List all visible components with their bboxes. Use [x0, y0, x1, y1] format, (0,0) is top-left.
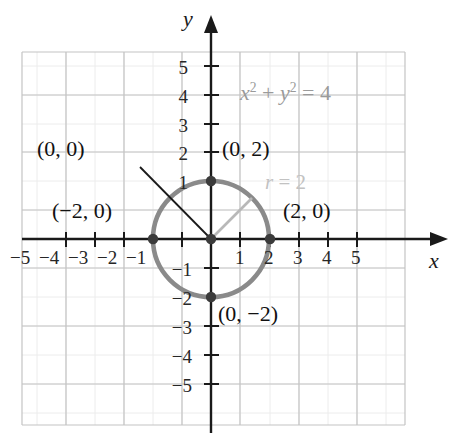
- y-tick--2: −2: [172, 289, 192, 308]
- x-tick--4: −4: [39, 248, 59, 267]
- equation-x-term: x: [240, 80, 250, 105]
- point-center: [206, 234, 216, 244]
- radius-line: [211, 198, 252, 239]
- radius-equals-two: = 2: [278, 170, 306, 194]
- x-tick--5: −5: [10, 248, 30, 267]
- x-tick-3: 3: [293, 248, 303, 267]
- x-tick-5: 5: [351, 248, 361, 267]
- y-tick--3: −3: [172, 318, 192, 337]
- x-tick--2: −2: [97, 248, 117, 267]
- x-axis-label: x: [429, 250, 439, 272]
- x-tick--1: −1: [126, 248, 146, 267]
- x-tick-2: 2: [264, 248, 274, 267]
- circle-graph-figure: x y −5 −4 −3 −2 −1 1 2 3 4 5 5 4 3 2 1 −…: [0, 0, 459, 433]
- point-left: [148, 234, 158, 244]
- leader-line-origin: [140, 167, 209, 237]
- point-label-bottom: (0, −2): [218, 303, 278, 325]
- circle-equation-annotation: x2 + y2 = 4: [240, 81, 331, 104]
- x-tick--3: −3: [68, 248, 88, 267]
- y-tick-2: 2: [179, 144, 189, 163]
- y-tick-3: 3: [179, 116, 189, 135]
- y-tick-4: 4: [179, 87, 189, 106]
- axis-lines: [22, 30, 434, 433]
- radius-annotation: r = 2: [265, 172, 306, 193]
- x-tick-4: 4: [322, 248, 332, 267]
- point-label-top: (0, 2): [222, 138, 270, 160]
- x-tick-1: 1: [235, 248, 245, 267]
- equation-x-exponent: 2: [250, 80, 257, 95]
- y-tick--1: −1: [172, 260, 192, 279]
- y-axis-label: y: [183, 8, 193, 30]
- equation-y-exponent: 2: [290, 80, 297, 95]
- point-label-left: (−2, 0): [52, 200, 112, 222]
- equation-y-term: y: [280, 80, 290, 105]
- point-bottom: [206, 292, 216, 302]
- point-right: [265, 234, 275, 244]
- point-top: [206, 176, 216, 186]
- x-axis-arrowhead: [430, 232, 448, 246]
- equation-plus-sign: +: [262, 80, 274, 105]
- equation-equals-four: = 4: [302, 80, 331, 105]
- point-label-right: (2, 0): [283, 200, 331, 222]
- y-tick--5: −5: [172, 376, 192, 395]
- y-axis-arrowhead: [204, 15, 218, 33]
- y-tick--4: −4: [172, 347, 192, 366]
- radius-symbol: r: [265, 170, 273, 194]
- y-tick-5: 5: [179, 58, 189, 77]
- point-label-origin: (0, 0): [37, 138, 85, 160]
- y-tick-1: 1: [179, 173, 189, 192]
